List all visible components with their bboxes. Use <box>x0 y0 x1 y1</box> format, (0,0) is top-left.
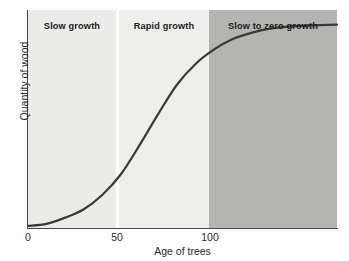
band-slow-to-zero-growth <box>209 10 337 228</box>
plot-area <box>28 10 337 228</box>
y-axis-title: Quantity of wood <box>18 7 30 155</box>
x-tick-label-50: 50 <box>106 231 128 243</box>
band-label-slow-growth: Slow growth <box>28 21 116 31</box>
chart-figure: Slow growth Rapid growth Slow to zero gr… <box>0 0 349 261</box>
band-slow-growth <box>28 10 116 228</box>
band-label-rapid-growth: Rapid growth <box>119 21 209 31</box>
band-label-slow-to-zero-growth: Slow to zero growth <box>209 21 337 31</box>
x-axis-title: Age of trees <box>28 245 337 257</box>
x-tick-label-100: 100 <box>196 231 224 243</box>
x-tick-label-0: 0 <box>18 231 38 243</box>
x-axis-line <box>27 228 338 229</box>
band-rapid-growth <box>119 10 209 228</box>
